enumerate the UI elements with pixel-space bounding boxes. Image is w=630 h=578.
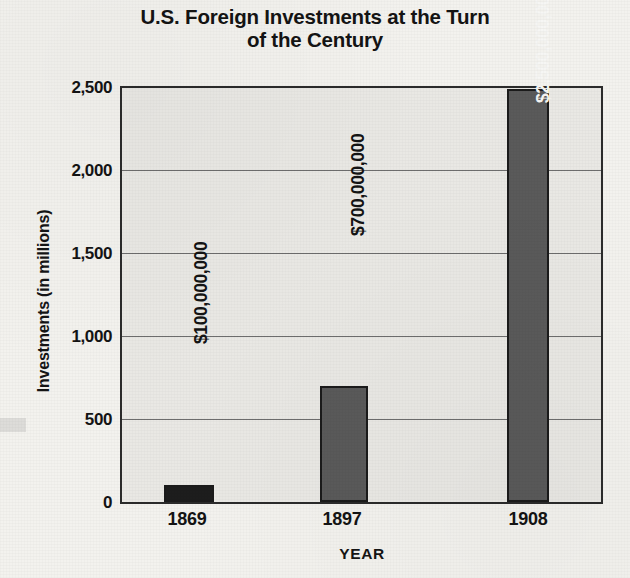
scan-artifact — [0, 418, 26, 432]
bar-value-label-1869: $100,000,000 — [191, 242, 212, 344]
bar-1897 — [320, 386, 368, 502]
y-tick-label-0: 0 — [26, 493, 112, 513]
chart-title-line-2: of the Century — [55, 29, 575, 52]
y-tick-label-1000: 1,000 — [26, 327, 112, 347]
x-tick-label-1908: 1908 — [448, 509, 608, 530]
chart-title: U.S. Foreign Investments at the Turn of … — [55, 6, 575, 52]
bar-chart-figure: U.S. Foreign Investments at the Turn of … — [0, 0, 630, 578]
bar-1869 — [164, 485, 214, 502]
chart-title-line-1: U.S. Foreign Investments at the Turn — [55, 6, 575, 29]
y-tick-label-2000: 2,000 — [26, 161, 112, 181]
bar-value-label-1908: $2,500,000,000 — [533, 0, 554, 103]
x-tick-label-1869: 1869 — [107, 509, 267, 530]
y-tick-label-1500: 1,500 — [26, 244, 112, 264]
x-axis-title: YEAR — [120, 545, 604, 563]
y-tick-label-500: 500 — [26, 410, 112, 430]
x-tick-label-1897: 1897 — [262, 509, 422, 530]
bar-1908 — [507, 89, 549, 502]
y-tick-label-2500: 2,500 — [26, 78, 112, 98]
bar-value-label-1897: $700,000,000 — [348, 134, 369, 236]
